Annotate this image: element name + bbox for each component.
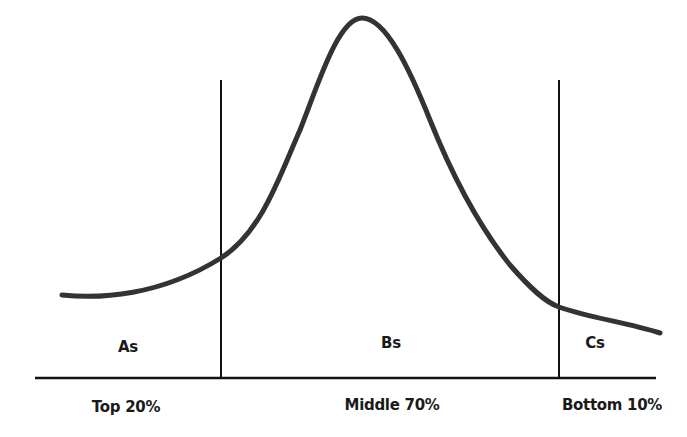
share-label-top: Top 20% — [92, 398, 160, 416]
share-label-bottom: Bottom 10% — [562, 396, 662, 414]
grade-label-as: As — [118, 338, 138, 356]
bell-curve-chart — [0, 0, 687, 437]
bell-curve — [62, 18, 660, 333]
share-label-middle: Middle 70% — [345, 396, 440, 414]
grade-label-cs: Cs — [585, 334, 604, 352]
grade-label-bs: Bs — [381, 334, 401, 352]
